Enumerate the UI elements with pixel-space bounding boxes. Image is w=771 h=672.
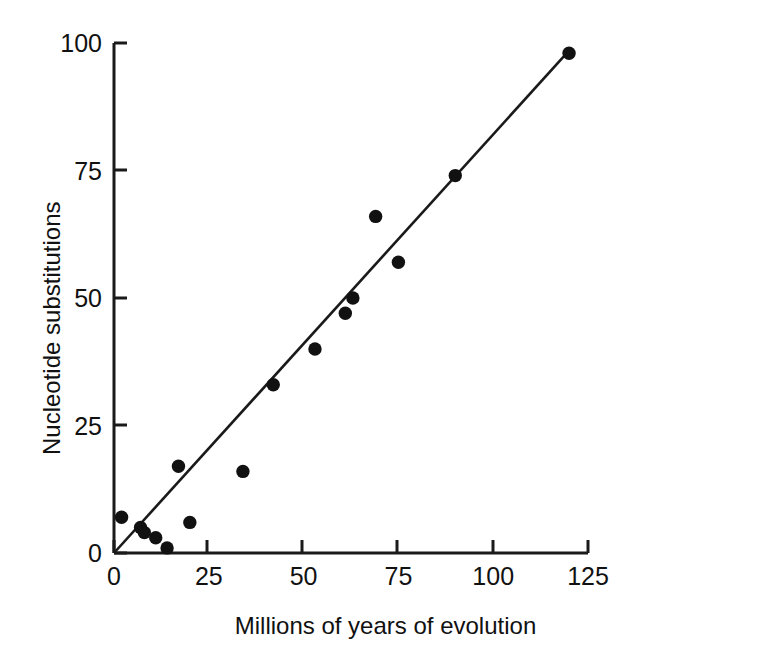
x-tick-label-100: 100 — [472, 562, 514, 591]
x-tick-label-75: 75 — [384, 562, 412, 591]
y-tick-label-25: 25 — [74, 411, 102, 440]
y-tick-label-0: 0 — [88, 539, 102, 568]
y-axis-title: Nucleotide substitutions — [38, 202, 66, 455]
data-point — [449, 169, 462, 182]
data-point — [339, 307, 352, 320]
x-tick-label-125: 125 — [567, 562, 609, 591]
data-point — [149, 531, 162, 544]
data-point-group — [115, 47, 576, 555]
data-point — [172, 460, 185, 473]
y-axis-ticks — [114, 43, 127, 553]
data-point — [183, 516, 196, 529]
data-point — [115, 511, 128, 524]
data-point — [346, 291, 359, 304]
trend-line — [114, 51, 569, 553]
y-tick-label-100: 100 — [60, 29, 102, 58]
y-tick-label-50: 50 — [74, 284, 102, 313]
data-point — [308, 342, 321, 355]
x-axis-title: Millions of years of evolution — [0, 612, 771, 640]
data-point — [392, 256, 405, 269]
data-point — [160, 541, 173, 554]
data-point — [562, 47, 575, 60]
y-tick-label-75: 75 — [74, 156, 102, 185]
data-point — [267, 378, 280, 391]
x-tick-label-0: 0 — [107, 562, 121, 591]
x-tick-label-50: 50 — [290, 562, 318, 591]
x-tick-label-25: 25 — [195, 562, 223, 591]
x-axis-ticks — [114, 540, 588, 553]
data-point — [236, 465, 249, 478]
scatter-chart-figure: 0255075100125 0255075100 Millions of yea… — [0, 0, 771, 672]
data-point — [369, 210, 382, 223]
